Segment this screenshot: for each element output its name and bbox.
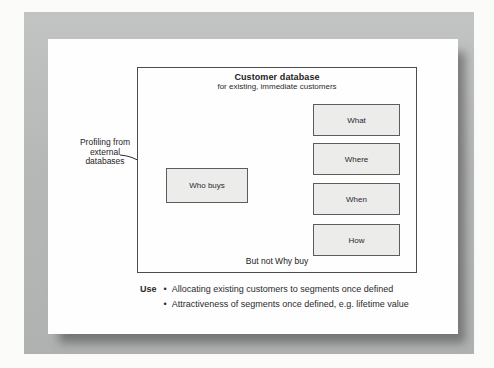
customer-database-panel: Customer database for existing, immediat… xyxy=(137,67,417,273)
panel-subtitle: for existing, immediate customers xyxy=(138,82,416,91)
use-heading: Use xyxy=(140,282,157,297)
box-where: Where xyxy=(313,143,400,175)
use-section: Use • Allocating existing customers to s… xyxy=(140,282,409,312)
panel-title: Customer database xyxy=(138,72,416,82)
box-when: When xyxy=(313,183,400,215)
box-where-label: Where xyxy=(345,155,369,164)
bullet-icon: • xyxy=(164,297,167,312)
use-bullet-text-2: Attractiveness of segments once defined,… xyxy=(172,297,409,312)
box-when-label: When xyxy=(346,195,367,204)
box-what-label: What xyxy=(347,116,366,125)
box-how: How xyxy=(313,224,400,256)
use-bullet-list: • Allocating existing customers to segme… xyxy=(164,282,409,312)
scanned-figure: Profiling from external databases Custom… xyxy=(0,0,494,368)
use-bullet-item: • Attractiveness of segments once define… xyxy=(164,297,409,312)
use-bullet-item: • Allocating existing customers to segme… xyxy=(164,282,409,297)
bullet-icon: • xyxy=(164,282,167,297)
box-how-label: How xyxy=(348,236,364,245)
box-what: What xyxy=(313,104,400,136)
use-bullet-text-1: Allocating existing customers to segment… xyxy=(172,282,394,297)
panel-footnote: But not Why buy xyxy=(138,256,416,266)
box-who-buys: Who buys xyxy=(166,168,248,203)
figure-page: Profiling from external databases Custom… xyxy=(48,39,458,334)
box-who-buys-label: Who buys xyxy=(189,181,225,190)
